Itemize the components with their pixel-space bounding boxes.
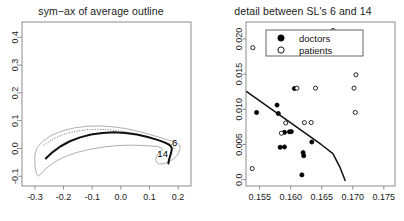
data-point-doctors — [255, 110, 259, 114]
data-point-patients — [353, 110, 357, 114]
x-tick-label: 0.155 — [248, 192, 271, 202]
data-point-doctors — [282, 145, 286, 149]
y-tick-label: 0.005 — [234, 133, 244, 156]
data-point-doctors — [275, 103, 279, 107]
left-plot-canvas: -0.3-0.2-0.10.00.10.2-0.10.00.10.20.30.4… — [0, 0, 202, 221]
data-point-patients — [313, 86, 317, 90]
y-tick-label: 0.0 — [234, 173, 244, 186]
x-tick-label: 0.0 — [115, 192, 128, 202]
right-plot-panel: detail between SL's 6 and 14 0.1550.1600… — [202, 0, 404, 221]
x-tick-label: 0.170 — [342, 192, 365, 202]
data-point-patients — [284, 121, 288, 125]
series-fitted-line — [246, 91, 345, 181]
series-symmetry-axis — [46, 132, 172, 163]
right-plot-title: detail between SL's 6 and 14 — [202, 5, 404, 17]
data-point-doctors — [310, 140, 314, 144]
data-point-patients — [250, 166, 254, 170]
x-tick-label: 0.165 — [310, 192, 333, 202]
data-point-patients — [251, 46, 255, 50]
x-tick-label: 0.2 — [172, 192, 185, 202]
x-tick-label: -0.3 — [27, 192, 43, 202]
left-plot-title: sym−ax of average outline — [0, 5, 202, 17]
left-plot-panel: sym−ax of average outline -0.3-0.2-0.10.… — [0, 0, 202, 221]
data-point-doctors — [278, 145, 282, 149]
y-tick-label: -0.1 — [10, 169, 20, 185]
y-tick-label: 0.020 — [234, 28, 244, 51]
curve-label: 6 — [172, 137, 177, 148]
y-tick-label: 0.3 — [10, 59, 20, 72]
curve-label: 14 — [157, 148, 168, 159]
legend-label-doctors: doctors — [299, 33, 330, 44]
legend-marker-patients — [278, 47, 284, 53]
data-point-patients — [279, 131, 283, 135]
y-tick-label: 0.4 — [10, 31, 20, 44]
figure-root: sym−ax of average outline -0.3-0.2-0.10.… — [0, 0, 404, 221]
data-point-patients — [302, 121, 306, 125]
x-tick-label: -0.1 — [84, 192, 100, 202]
data-point-doctors — [289, 130, 293, 134]
legend-label-patients: patients — [299, 45, 333, 56]
data-point-patients — [352, 86, 356, 90]
y-tick-label: 0.015 — [234, 63, 244, 86]
x-tick-label: 0.160 — [279, 192, 302, 202]
data-point-doctors — [302, 154, 306, 158]
y-tick-label: 0.0 — [10, 142, 20, 155]
y-tick-label: 0.1 — [10, 114, 20, 127]
right-plot-canvas: 0.1550.1600.1650.1700.1750.00.0050.0100.… — [202, 0, 404, 221]
plot-frame — [22, 22, 191, 186]
x-tick-label: 0.175 — [373, 192, 396, 202]
data-point-patients — [309, 120, 313, 124]
data-point-doctors — [300, 173, 304, 177]
y-tick-label: 0.010 — [234, 98, 244, 121]
y-tick-label: 0.2 — [10, 87, 20, 100]
x-tick-label: -0.2 — [56, 192, 72, 202]
data-point-patients — [354, 73, 358, 77]
data-point-patients — [295, 86, 299, 90]
legend-marker-doctors — [278, 35, 284, 41]
x-tick-label: 0.1 — [143, 192, 156, 202]
